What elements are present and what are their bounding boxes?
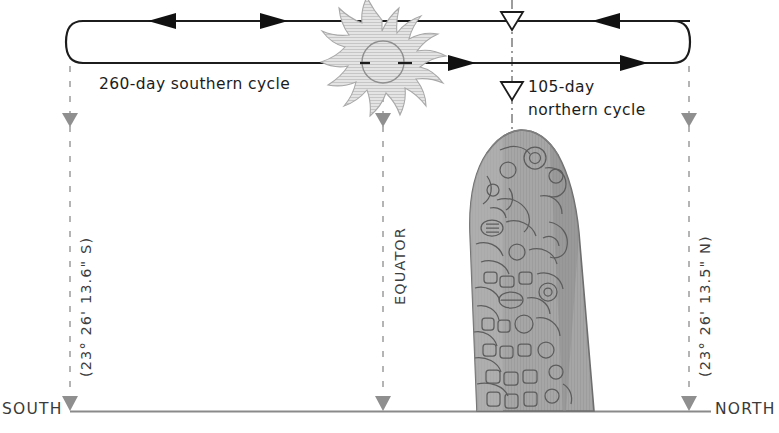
southern-cycle-label: 260-day southern cycle [99, 75, 290, 93]
sun-icon [321, 0, 446, 116]
northern-cycle-days-label: 105-day [528, 78, 595, 96]
down-triangle-marker-icon-equator-base [375, 396, 391, 411]
northern-cycle-loop-path [405, 21, 690, 63]
down-triangle-marker-icon-north-upper [681, 113, 697, 127]
tropic-north-label: (23° 26' 13.5" N) [697, 235, 713, 377]
down-triangle-marker-icon-south-upper [62, 113, 78, 127]
diagram-canvas: 260-day southern cycle 105-day northern … [0, 0, 779, 433]
down-triangle-marker-icon-south-base [62, 396, 78, 411]
down-triangle-marker-icon-north-base [681, 396, 697, 411]
tropic-south-label: (23° 26' 13.6" S) [78, 237, 94, 377]
baseline-marker-triangles-group [62, 396, 697, 411]
hollow-down-triangle-icon-bottom [501, 82, 523, 100]
arrow-right-icon-bottom-center [448, 55, 476, 71]
arrow-right-icon-bottom-west [260, 13, 288, 29]
equator-label: EQUATOR [392, 227, 408, 305]
arrow-left-icon-top-east [592, 13, 620, 29]
diagram-vector-layer [0, 0, 779, 433]
north-endpoint-label: NORTH [715, 400, 776, 418]
northern-cycle-name-label: northern cycle [528, 101, 646, 119]
maya-stela-icon [470, 130, 594, 411]
arrow-right-icon-bottom-east [620, 55, 648, 71]
south-endpoint-label: SOUTH [2, 400, 63, 418]
equator-triangle-markers-group [501, 12, 523, 100]
down-triangle-marker-icon-equator-upper [375, 113, 391, 127]
arrow-left-icon-top-west [148, 13, 176, 29]
